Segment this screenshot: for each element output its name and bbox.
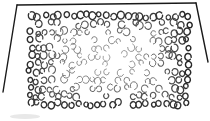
- drawn-circle: [92, 37, 98, 43]
- drawn-circle: [77, 53, 81, 58]
- drawn-circle: [121, 51, 127, 57]
- drawn-circle: [61, 75, 68, 83]
- drawn-circle: [73, 93, 80, 100]
- drawn-circle: [185, 13, 190, 19]
- drawn-circle: [27, 28, 33, 34]
- drawn-circle: [136, 46, 142, 52]
- drawn-circle: [104, 69, 109, 75]
- drawn-circle: [77, 76, 83, 83]
- drawn-circle: [156, 85, 163, 92]
- drawn-circle: [96, 12, 100, 17]
- drawn-circle: [44, 12, 49, 18]
- drawn-circle: [104, 21, 109, 27]
- drawn-circle: [35, 20, 42, 27]
- drawn-circle: [144, 70, 149, 76]
- drawn-circle: [176, 77, 182, 83]
- drawn-circle: [144, 54, 149, 60]
- drawn-circle: [49, 59, 54, 64]
- drawn-circle: [28, 77, 33, 82]
- drawn-circle: [136, 54, 142, 60]
- drawn-circle: [50, 30, 55, 35]
- drawn-circle: [116, 39, 120, 44]
- drawn-circle: [98, 19, 104, 25]
- drawn-circle: [150, 92, 156, 98]
- drawn-circle: [169, 94, 174, 99]
- drawn-circle: [159, 53, 164, 59]
- drawn-circle: [53, 86, 60, 93]
- drawn-circle: [184, 83, 189, 88]
- drawn-circle: [95, 102, 100, 108]
- drawn-circle: [26, 68, 31, 73]
- drawn-circle: [108, 84, 113, 90]
- drawn-circle: [123, 28, 130, 36]
- drawn-circle: [35, 59, 40, 65]
- drawn-circle: [76, 101, 81, 107]
- drawn-circle: [125, 13, 131, 20]
- drawn-circle: [61, 27, 68, 35]
- drawn-circle: [60, 59, 65, 64]
- drawn-circle: [95, 46, 101, 53]
- drawn-circle: [115, 77, 121, 83]
- drawn-circle: [176, 55, 181, 61]
- drawn-circle: [145, 22, 151, 29]
- drawn-circle: [103, 55, 110, 61]
- drawn-circle: [48, 102, 55, 109]
- drawn-circle: [156, 100, 161, 106]
- drawn-circle: [143, 101, 148, 107]
- drawn-circle: [103, 61, 108, 66]
- drawn-circle: [184, 28, 191, 35]
- drawn-circle: [29, 51, 36, 58]
- drawn-circle: [41, 102, 47, 108]
- drawn-circle: [29, 85, 34, 90]
- drawn-circle: [96, 86, 101, 92]
- drawn-circle: [77, 61, 82, 65]
- drawn-circle: [166, 15, 170, 20]
- drawn-circle: [118, 21, 125, 29]
- drawn-circle: [40, 51, 47, 59]
- drawn-circle: [184, 100, 189, 105]
- frame-left-edge: [3, 5, 17, 92]
- drawn-circle: [81, 59, 86, 64]
- drawn-circle: [76, 23, 81, 29]
- drawn-circle: [187, 22, 192, 28]
- drawn-circle: [114, 85, 120, 92]
- drawn-circle: [177, 95, 181, 100]
- drawn-circle: [130, 69, 135, 74]
- drawn-circle: [106, 30, 111, 35]
- drawn-circle: [175, 102, 181, 109]
- drawn-circle: [90, 20, 96, 27]
- drawn-circle: [185, 53, 191, 60]
- drawn-circle: [62, 102, 68, 108]
- circle-field: [26, 11, 192, 109]
- drawn-circle: [141, 85, 147, 92]
- drawn-circle: [160, 46, 165, 52]
- drawn-circle: [27, 36, 33, 42]
- drawn-circle: [164, 101, 169, 107]
- drawn-circle: [180, 12, 185, 18]
- drawn-circle: [69, 102, 74, 108]
- drawn-circle: [139, 60, 144, 65]
- drawn-circle: [33, 69, 39, 76]
- drawn-circle: [27, 61, 33, 68]
- drawn-circle: [95, 69, 101, 75]
- drawn-circle: [54, 19, 60, 26]
- drawn-circle: [69, 62, 75, 69]
- drawn-circle: [85, 30, 89, 35]
- drawn-circle: [171, 44, 178, 52]
- drawn-circle: [103, 12, 109, 18]
- drawn-circle: [42, 30, 47, 35]
- drawn-circle: [125, 85, 129, 90]
- drawn-circle: [158, 60, 164, 66]
- drawn-circle: [62, 46, 69, 53]
- drawn-circle: [185, 77, 191, 83]
- drawn-circle: [95, 54, 100, 59]
- drawn-circle: [82, 21, 89, 28]
- drawn-circle: [39, 86, 45, 93]
- drawn-circle: [159, 20, 164, 26]
- drawn-circle: [180, 71, 185, 77]
- drawn-circle: [64, 12, 69, 18]
- drawn-circle: [67, 93, 72, 98]
- drawn-circle: [71, 29, 77, 36]
- drawn-circle: [162, 91, 168, 97]
- drawn-circle: [169, 77, 176, 84]
